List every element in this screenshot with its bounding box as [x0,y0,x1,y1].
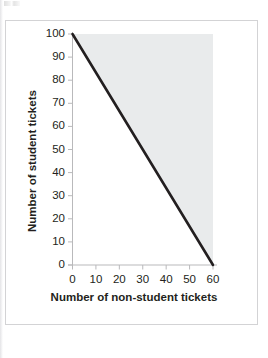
y-tick-label: 10 [33,236,65,248]
x-tick-label: 10 [83,274,109,286]
x-tick-label: 50 [177,274,203,286]
y-tick-label: 0 [33,259,65,271]
x-tick-label: 30 [130,274,156,286]
x-tick-label: 0 [60,274,86,286]
x-axis-title: Number of non-student tickets [0,292,268,304]
x-tick-label: 60 [200,274,226,286]
y-tick-label: 100 [33,28,65,40]
y-tick-label: 80 [33,74,65,86]
plot-area [68,32,217,270]
x-tick-label: 40 [153,274,179,286]
y-tick-label: 90 [33,51,65,63]
x-tick-label: 20 [106,274,132,286]
y-axis-title: Number of student tickets [27,90,39,232]
